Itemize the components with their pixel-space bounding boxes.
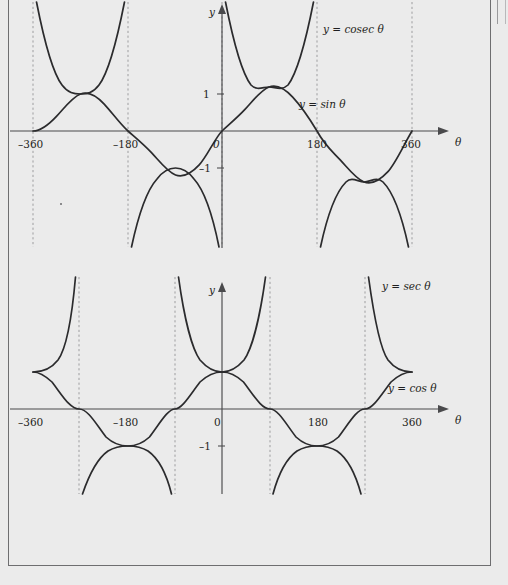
sec-cos-chart: –360 –180 0 180 360 –1 y θ y = sec θ y =… <box>0 272 508 562</box>
x-tick-label-minus180-top: –180 <box>113 138 138 150</box>
y-tick-label-1-top: 1 <box>203 88 210 100</box>
x-tick-label-minus360-bottom: –360 <box>18 416 43 428</box>
cosec-branch-2 <box>132 168 220 247</box>
x-axis-label-bottom: θ <box>455 414 462 426</box>
sec-branch-180 <box>273 446 361 494</box>
cosec-branch-1 <box>37 2 125 94</box>
y-tick-label-minus1-top: –1 <box>199 162 211 174</box>
x-tick-label-180-bottom: 180 <box>308 416 328 428</box>
cosec-branch-4 <box>321 179 409 247</box>
sec-branch-minus180 <box>83 446 172 494</box>
x-axis-label-top: θ <box>455 136 462 148</box>
x-tick-label-360-top: 360 <box>401 138 421 150</box>
x-axis-arrowhead-bottom <box>438 405 449 413</box>
cosec-sin-chart: –360 –180 0 180 360 1 –1 y θ y = cosec θ… <box>0 0 508 290</box>
y-axis-arrowhead-top <box>218 4 226 14</box>
x-axis-arrowhead-top <box>438 127 449 135</box>
cosec-branch-3 <box>226 2 314 88</box>
figure-page: –360 –180 0 180 360 1 –1 y θ y = cosec θ… <box>0 0 508 585</box>
x-tick-label-360-bottom: 360 <box>402 416 422 428</box>
x-tick-label-180-top: 180 <box>307 138 327 150</box>
x-tick-label-zero-bottom: 0 <box>214 416 221 428</box>
y-axis-arrowhead-bottom <box>218 282 226 292</box>
x-tick-label-zero-top: 0 <box>213 138 220 150</box>
sin-series-label: y = sin θ <box>298 98 346 110</box>
cos-series-label: y = cos θ <box>387 382 437 394</box>
x-tick-label-minus360-top: –360 <box>18 138 43 150</box>
cosec-series-label: y = cosec θ <box>322 23 384 35</box>
y-axis-label-top: y <box>208 6 216 18</box>
x-tick-label-minus180-bottom: –180 <box>113 416 138 428</box>
y-tick-label-minus1-bottom: –1 <box>199 440 211 452</box>
sec-branch-left-edge <box>33 277 76 372</box>
sec-series-label: y = sec θ <box>381 280 431 292</box>
y-axis-label-bottom: y <box>208 284 216 296</box>
